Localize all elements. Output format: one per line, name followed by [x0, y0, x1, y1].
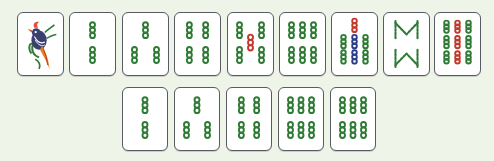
tile-bamboo-3[interactable]: [174, 87, 220, 151]
bamboo-9-icon: [435, 13, 480, 75]
bamboo-2-icon: [123, 88, 167, 150]
bamboo-4-icon: [175, 13, 220, 75]
bamboo-5-icon: [228, 13, 273, 75]
tile-bamboo-6[interactable]: [278, 87, 324, 151]
bamboo-6-icon: [331, 88, 375, 150]
tile-bamboo-2[interactable]: [122, 87, 168, 151]
tile-bamboo-1[interactable]: [17, 12, 64, 76]
tile-bamboo-6[interactable]: [279, 12, 326, 76]
tile-bamboo-4[interactable]: [174, 12, 221, 76]
bamboo-3-icon: [175, 88, 219, 150]
bird-icon: [18, 13, 63, 75]
bamboo-4-icon: [227, 88, 271, 150]
tile-bamboo-9[interactable]: [434, 12, 481, 76]
tile-bamboo-6[interactable]: [330, 87, 376, 151]
bamboo-6-icon: [279, 88, 323, 150]
tile-bamboo-3[interactable]: [122, 12, 169, 76]
tile-bamboo-7[interactable]: [331, 12, 378, 76]
tile-bamboo-2[interactable]: [69, 12, 116, 76]
bamboo-8-icon: [384, 13, 429, 75]
bamboo-3-icon: [123, 13, 168, 75]
bamboo-2-icon: [70, 13, 115, 75]
bamboo-6-icon: [280, 13, 325, 75]
tile-bamboo-4[interactable]: [226, 87, 272, 151]
tile-bamboo-8[interactable]: [383, 12, 430, 76]
tile-bamboo-5[interactable]: [227, 12, 274, 76]
bamboo-7-icon: [332, 13, 377, 75]
